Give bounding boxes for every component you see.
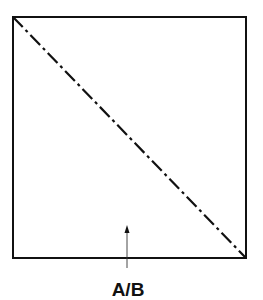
diagram-label: A/B [0,279,256,300]
pointer-arrow-head-icon [125,225,130,233]
diagonal-dash-dot-line [13,17,246,258]
diagram-canvas [0,0,263,300]
